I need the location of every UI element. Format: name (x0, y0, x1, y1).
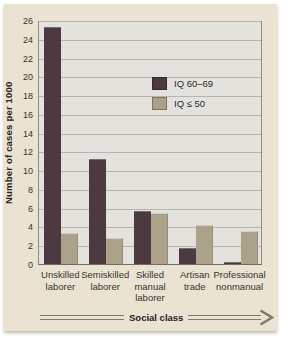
gridline (39, 190, 261, 191)
gridline (39, 115, 261, 116)
y-tick-label: 0 (0, 260, 33, 270)
gridline (39, 77, 261, 78)
legend: IQ 60–69IQ ≤ 50 (152, 77, 213, 117)
gridline (39, 171, 261, 172)
y-tick-label: 16 (0, 110, 33, 120)
bar-iq60-69 (179, 248, 196, 264)
y-tick-label: 6 (0, 204, 33, 214)
y-tick-label: 26 (0, 16, 33, 26)
bar-iq60-69 (89, 159, 106, 264)
x-category-label: Professional nonmanual (210, 269, 270, 292)
y-tick-label: 12 (0, 147, 33, 157)
y-tick-label: 24 (0, 35, 33, 45)
y-tick-label: 20 (0, 72, 33, 82)
y-tick-label: 10 (0, 166, 33, 176)
gridline (39, 209, 261, 210)
x-axis-title: Social class (129, 312, 183, 323)
legend-entry: IQ 60–69 (152, 77, 213, 90)
bar-iq-le-50 (196, 225, 213, 264)
legend-entry: IQ ≤ 50 (152, 97, 213, 110)
y-tick-label: 2 (0, 241, 33, 251)
x-category-label: Skilled manual laborer (127, 269, 173, 304)
x-category-label: Semiskilled laborer (76, 269, 134, 292)
plot-area: IQ 60–69IQ ≤ 50 (38, 21, 262, 265)
bar-iq-le-50 (106, 238, 123, 264)
gridline (39, 152, 261, 153)
arrow-head-icon (259, 309, 274, 326)
figure: Number of cases per 1000 024681012141618… (0, 0, 284, 341)
y-tick-label: 4 (0, 222, 33, 232)
y-tick-label: 22 (0, 54, 33, 64)
arrow-shaft-right (188, 315, 261, 320)
gridline (39, 59, 261, 60)
legend-label: IQ ≤ 50 (174, 98, 205, 109)
bar-iq60-69 (44, 27, 61, 264)
legend-label: IQ 60–69 (174, 78, 213, 89)
bar-iq60-69 (224, 262, 241, 264)
gridline (39, 134, 261, 135)
y-tick-label: 14 (0, 129, 33, 139)
bar-iq-le-50 (151, 213, 168, 264)
y-tick-label: 8 (0, 185, 33, 195)
legend-swatch-icon (152, 97, 167, 110)
gridline (39, 40, 261, 41)
bar-iq-le-50 (241, 231, 258, 264)
y-tick-label: 18 (0, 91, 33, 101)
gridline (39, 96, 261, 97)
gridline (39, 21, 261, 22)
bar-iq-le-50 (61, 233, 78, 264)
legend-swatch-icon (152, 77, 167, 90)
bar-iq60-69 (134, 211, 151, 264)
social-class-arrow: Social class (40, 308, 274, 326)
arrow-shaft-left (40, 315, 124, 320)
